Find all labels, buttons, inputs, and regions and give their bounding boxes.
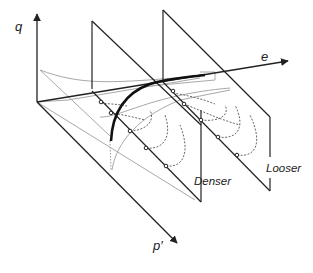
looser-label: Looser — [266, 162, 302, 174]
csl-projection-dotted — [110, 141, 111, 170]
plane-denser — [92, 21, 201, 202]
q-axis-label: q — [15, 19, 23, 34]
state-points — [99, 89, 239, 168]
denser-label: Denser — [194, 175, 232, 187]
soil-state-diagram: q e p′ Denser Looser — [0, 0, 313, 273]
p-axis-label: p′ — [152, 238, 163, 253]
p-axis — [37, 102, 177, 243]
e-axis-label: e — [261, 49, 268, 64]
